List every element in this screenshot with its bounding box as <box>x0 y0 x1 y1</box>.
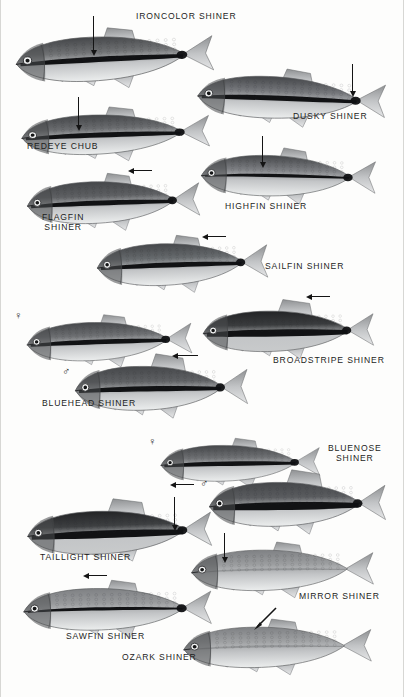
leader-line <box>174 497 175 525</box>
arrowhead-left-icon <box>202 234 208 240</box>
fish-illustration-bluehead-m <box>69 348 250 427</box>
species-caption-ironcolor: IRONCOLOR SHINER <box>136 11 237 22</box>
arrowhead-down-icon <box>91 50 97 56</box>
arrowhead-left-icon <box>128 168 134 174</box>
species-caption-ozark: OZARK SHINER <box>122 652 197 663</box>
arrowhead-diagonal-icon <box>252 607 282 637</box>
species-caption-mirror: MIRROR SHINER <box>299 591 380 602</box>
species-caption-highfin: HIGHFIN SHINER <box>225 201 307 212</box>
species-caption-bluenose: BLUENOSE SHINER <box>328 443 382 463</box>
species-caption-flagfin: FLAGFIN SHINER <box>42 212 84 232</box>
fish-illustration-ironcolor <box>8 15 218 102</box>
arrowhead-down-icon <box>76 125 82 131</box>
arrowhead-down-icon <box>172 525 178 531</box>
fish-illustration-bluenose-m <box>203 464 388 543</box>
plate-left-rule <box>0 0 1 697</box>
fish-illustration-redeye <box>15 97 213 172</box>
species-caption-bluehead: BLUEHEAD SHINER <box>42 398 136 409</box>
fish-identification-plate: ♀♂♀♂ IRONCOLOR SHINERDUSKY SHINERREDEYE … <box>0 0 404 697</box>
sex-symbol-bluenose-female: ♀ <box>148 436 156 447</box>
fish-illustration-sailfin <box>91 225 271 303</box>
leader-line <box>262 136 263 162</box>
leader-line <box>89 575 107 576</box>
leader-line <box>208 236 226 237</box>
sex-symbol-bluehead-female: ♀ <box>14 310 22 321</box>
leader-line <box>176 484 194 485</box>
arrowhead-left-icon <box>83 573 89 579</box>
leader-line <box>93 16 94 50</box>
leader-line <box>78 97 79 125</box>
arrowhead-down-icon <box>350 91 356 97</box>
leader-line <box>312 296 330 297</box>
arrowhead-left-icon <box>306 294 312 300</box>
arrowhead-down-icon <box>260 162 266 168</box>
species-caption-dusky: DUSKY SHINER <box>293 111 368 122</box>
leader-line <box>352 64 353 91</box>
species-caption-redeye: REDEYE CHUB <box>27 141 98 152</box>
arrowhead-down-icon <box>222 557 228 563</box>
fish-illustration-dusky <box>191 59 389 138</box>
leader-line <box>224 533 225 557</box>
sex-symbol-bluenose-male: ♂ <box>200 478 208 489</box>
species-caption-taillight: TAILLIGHT SHINER <box>40 552 131 563</box>
species-caption-broadstripe: BROADSTRIPE SHINER <box>273 355 385 366</box>
leader-line <box>134 170 152 171</box>
arrowhead-left-icon <box>170 482 176 488</box>
species-caption-sailfin: SAILFIN SHINER <box>265 261 344 272</box>
arrowhead-left-icon <box>172 353 178 359</box>
leader-line <box>178 355 198 356</box>
sex-symbol-bluehead-male: ♂ <box>62 366 70 377</box>
species-caption-sawfin: SAWFIN SHINER <box>66 631 145 642</box>
